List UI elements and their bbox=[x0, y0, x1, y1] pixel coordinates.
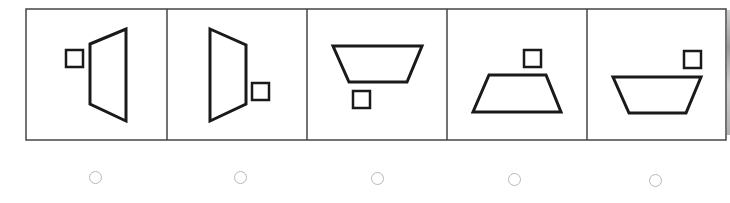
option-panel-3 bbox=[333, 46, 422, 108]
answer-radio-1[interactable] bbox=[89, 171, 102, 184]
option-panel-5 bbox=[613, 51, 701, 113]
answer-radio-3[interactable] bbox=[371, 172, 384, 185]
trapezoid-shape bbox=[613, 77, 701, 113]
trapezoid-shape bbox=[473, 75, 561, 112]
option-panel-2 bbox=[210, 29, 269, 121]
option-panels bbox=[0, 0, 730, 203]
trapezoid-shape bbox=[210, 29, 246, 121]
trapezoid-shape bbox=[90, 29, 126, 121]
option-panel-1 bbox=[66, 29, 126, 121]
small-square-shape bbox=[524, 50, 541, 67]
figure-puzzle bbox=[0, 0, 730, 203]
small-square-shape bbox=[684, 51, 701, 68]
small-square-shape bbox=[66, 50, 83, 67]
small-square-shape bbox=[252, 83, 269, 100]
option-panel-4 bbox=[473, 50, 561, 112]
answer-radio-5[interactable] bbox=[649, 174, 662, 187]
small-square-shape bbox=[353, 91, 370, 108]
answer-radio-2[interactable] bbox=[234, 171, 247, 184]
answer-radio-4[interactable] bbox=[508, 173, 521, 186]
trapezoid-shape bbox=[333, 46, 422, 82]
options-frame bbox=[26, 9, 726, 140]
panel-shapes bbox=[66, 29, 701, 121]
